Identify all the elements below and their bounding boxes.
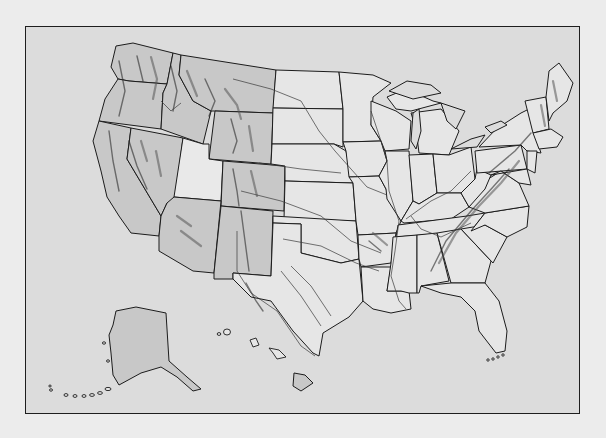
state-new-jersey	[527, 151, 537, 173]
map-frame	[25, 26, 580, 414]
state-north-dakota	[273, 70, 343, 109]
state-south-dakota	[272, 108, 343, 147]
hawaii-oahu	[250, 338, 259, 347]
state-florida	[421, 283, 507, 353]
state-oregon	[99, 79, 167, 129]
hawaii-big-island	[293, 373, 313, 391]
florida-keys	[487, 354, 504, 361]
state-pennsylvania	[475, 145, 527, 173]
state-colorado	[221, 161, 285, 211]
hawaii-niihau	[217, 333, 221, 336]
state-arizona	[159, 197, 221, 273]
state-new-mexico	[214, 206, 273, 279]
alaska-inset	[49, 307, 201, 397]
hawaii-kauai	[224, 329, 231, 335]
alaska	[109, 307, 201, 391]
central-eastern-states	[233, 63, 573, 356]
state-iowa	[343, 141, 387, 177]
hawaii-maui-molokai	[269, 348, 286, 359]
state-maine	[546, 63, 573, 121]
state-massachusetts-ct-ri	[533, 129, 563, 149]
state-arkansas	[358, 233, 396, 267]
hawaii-inset	[217, 329, 313, 391]
aleutian-islands	[49, 342, 111, 398]
state-kansas	[284, 181, 356, 221]
us-relief-map	[25, 26, 580, 414]
